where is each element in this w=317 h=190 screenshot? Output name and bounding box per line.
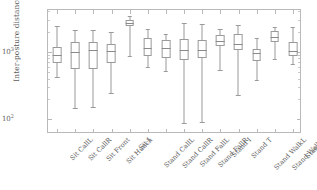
- box-plot-group: [121, 10, 139, 132]
- whisker-cap-lower: [73, 108, 78, 109]
- whisker-upper: [202, 24, 203, 40]
- box-iqr: [289, 42, 298, 56]
- box-iqr: [89, 42, 98, 68]
- whisker-upper: [238, 25, 239, 34]
- box-iqr: [107, 44, 116, 63]
- y-axis-label: Inter-posture distances [Ω]: [12, 0, 21, 90]
- x-tick-mark: [293, 10, 294, 14]
- median-line: [143, 48, 152, 49]
- whisker-lower: [75, 69, 76, 108]
- whisker-lower: [57, 63, 58, 77]
- plot-area: [47, 9, 301, 133]
- x-axis-labels: Sit CallLSit CallRSit FrontSit HunchSit …: [0, 133, 317, 190]
- box-iqr: [198, 40, 207, 58]
- whisker-cap-upper: [109, 32, 114, 33]
- x-tick-mark: [148, 129, 149, 133]
- whisker-lower: [129, 26, 130, 56]
- x-tick-mark: [293, 129, 294, 133]
- median-line: [234, 44, 243, 45]
- x-tick-mark: [75, 10, 76, 14]
- median-line: [252, 53, 261, 54]
- whisker-upper: [256, 38, 257, 49]
- whisker-cap-upper: [273, 27, 278, 28]
- whisker-lower: [147, 56, 148, 67]
- whisker-cap-lower: [164, 71, 169, 72]
- whisker-cap-upper: [164, 34, 169, 35]
- whisker-cap-lower: [146, 67, 151, 68]
- whisker-cap-upper: [218, 29, 223, 30]
- y-tick-label: 103: [2, 46, 14, 56]
- whisker-lower: [202, 58, 203, 122]
- box-plot-group: [84, 10, 102, 132]
- median-line: [198, 50, 207, 51]
- whisker-cap-lower: [236, 95, 241, 96]
- whisker-lower: [220, 46, 221, 70]
- whisker-cap-lower: [273, 59, 278, 60]
- median-line: [216, 41, 225, 42]
- median-line: [125, 23, 134, 24]
- median-line: [162, 48, 171, 49]
- x-tick-mark: [257, 129, 258, 133]
- x-tick-mark: [239, 129, 240, 133]
- x-tick-mark: [220, 129, 221, 133]
- whisker-cap-upper: [254, 38, 259, 39]
- x-tick-mark: [57, 129, 58, 133]
- boxplot-figure: Inter-posture distances [Ω] 103102 Sit C…: [0, 0, 317, 190]
- whisker-upper: [75, 30, 76, 42]
- x-tick-mark: [57, 10, 58, 14]
- box-plot-group: [284, 10, 302, 132]
- box-plot-group: [102, 10, 120, 132]
- box-plot-group: [157, 10, 175, 132]
- whisker-cap-lower: [109, 93, 114, 94]
- median-line: [89, 50, 98, 51]
- whisker-cap-lower: [127, 56, 132, 57]
- median-line: [53, 55, 62, 56]
- whisker-cap-upper: [55, 26, 60, 27]
- whisker-upper: [184, 23, 185, 39]
- box-plot-group: [229, 10, 247, 132]
- box-plot-group: [248, 10, 266, 132]
- x-tick-mark: [239, 10, 240, 14]
- x-tick-mark: [275, 10, 276, 14]
- whisker-lower: [184, 60, 185, 123]
- whisker-cap-lower: [91, 107, 96, 108]
- x-tick-mark: [93, 129, 94, 133]
- x-tick-mark: [166, 129, 167, 133]
- whisker-lower: [256, 61, 257, 80]
- median-line: [107, 51, 116, 52]
- box-plot-group: [139, 10, 157, 132]
- whisker-cap-upper: [291, 27, 296, 28]
- box-plot-group: [193, 10, 211, 132]
- whisker-cap-lower: [218, 70, 223, 71]
- whisker-lower: [238, 50, 239, 95]
- x-tick-mark: [166, 10, 167, 14]
- whisker-cap-upper: [182, 23, 187, 24]
- x-tick-mark: [257, 10, 258, 14]
- whisker-upper: [147, 29, 148, 38]
- whisker-upper: [93, 30, 94, 42]
- whisker-lower: [111, 63, 112, 93]
- box-iqr: [143, 38, 152, 56]
- median-line: [289, 51, 298, 52]
- median-line: [180, 50, 189, 51]
- box-plot-group: [266, 10, 284, 132]
- x-tick-mark: [112, 10, 113, 14]
- box-iqr: [252, 49, 261, 62]
- whisker-cap-lower: [200, 122, 205, 123]
- whisker-cap-upper: [200, 24, 205, 25]
- x-tick-mark: [184, 10, 185, 14]
- box-plot-group: [175, 10, 193, 132]
- whisker-upper: [292, 27, 293, 42]
- box-plot-group: [66, 10, 84, 132]
- box-iqr: [234, 34, 243, 50]
- x-tick-mark: [148, 10, 149, 14]
- box-plot-group: [48, 10, 66, 132]
- whisker-cap-upper: [91, 30, 96, 31]
- x-tick-mark: [130, 10, 131, 14]
- x-tick-mark: [202, 10, 203, 14]
- whisker-lower: [165, 58, 166, 71]
- x-tick-mark: [220, 10, 221, 14]
- box-iqr: [71, 42, 80, 69]
- whisker-cap-lower: [55, 77, 60, 78]
- whisker-cap-upper: [73, 30, 78, 31]
